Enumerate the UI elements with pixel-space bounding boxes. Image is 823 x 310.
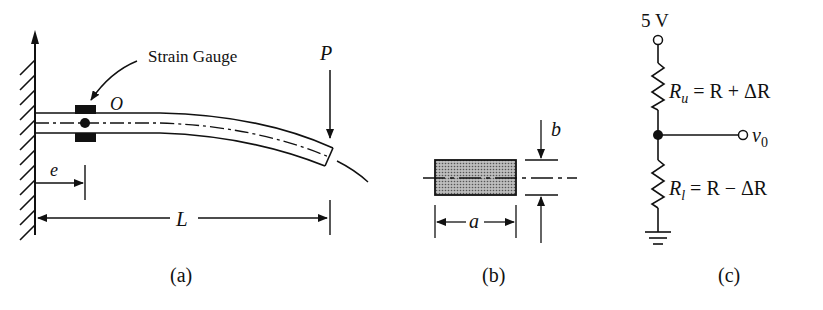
load-p-label: P — [319, 42, 332, 64]
supply-label: 5 V — [641, 10, 669, 31]
point-o-label: O — [110, 94, 123, 114]
strain-gauge-label: Strain Gauge — [148, 47, 237, 66]
figure-canvas: Strain Gauge O P e L (a) b a (b) 5 — [0, 0, 823, 310]
output-terminal — [739, 131, 748, 140]
upper-resistor — [652, 63, 664, 110]
upper-resistor-label: Ru = R + ΔR — [668, 80, 771, 106]
cantilever-diagram: Strain Gauge O P e L (a) — [20, 30, 368, 287]
caption-b: (b) — [482, 264, 505, 287]
caption-a: (a) — [170, 264, 192, 287]
fixed-wall — [20, 30, 39, 240]
supply-terminal — [654, 36, 663, 45]
cross-section-diagram: b a (b) — [423, 118, 577, 287]
caption-c: (c) — [718, 264, 740, 287]
output-label: v0 — [752, 124, 768, 150]
deflection-curve — [337, 161, 368, 182]
a-label: a — [469, 210, 479, 232]
voltage-divider-circuit: 5 V Ru = R + ΔR v0 Rl = R − ΔR (c) — [641, 10, 771, 287]
e-label: e — [50, 160, 58, 180]
wall-arrow-icon — [31, 30, 39, 44]
b-label: b — [551, 118, 561, 140]
l-label: L — [175, 207, 188, 231]
lower-resistor-label: Rl = R − ΔR — [668, 177, 768, 203]
lower-resistor — [652, 160, 664, 208]
junction-node — [653, 130, 663, 140]
